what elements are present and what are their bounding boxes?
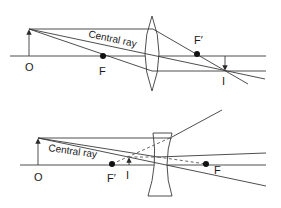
focal-point-Fprime-top bbox=[194, 51, 200, 57]
focal-ray-refracted-bottom bbox=[158, 153, 266, 157]
focal-label-F-bottom: F bbox=[214, 164, 221, 176]
convex-lens bbox=[145, 16, 159, 91]
focal-point-Fprime-bottom bbox=[109, 161, 115, 167]
image-label-bottom: I bbox=[126, 169, 129, 181]
concave-lens-diagram: O F′ I F Central ray bbox=[20, 110, 266, 196]
object-label-top: O bbox=[25, 61, 34, 73]
focal-label-Fprime-bottom: F′ bbox=[107, 172, 116, 184]
concave-lens bbox=[148, 133, 172, 196]
convex-lens-diagram: O F F′ I Central ray bbox=[10, 16, 266, 91]
image-label-top: I bbox=[222, 75, 225, 87]
focal-label-Fprime-top: F′ bbox=[194, 34, 203, 46]
parallel-ray-refracted-bottom bbox=[172, 110, 222, 137]
central-ray-label-bottom: Central ray bbox=[48, 142, 98, 160]
focal-label-F-top: F bbox=[99, 65, 106, 77]
focal-point-F-top bbox=[100, 53, 106, 59]
central-ray-label-top: Central ray bbox=[88, 28, 138, 49]
object-label-bottom: O bbox=[34, 171, 43, 183]
focal-point-F-bottom bbox=[203, 161, 209, 167]
ray-diagram-canvas: O F F′ I Central ray O F′ I F Ce bbox=[0, 0, 281, 208]
